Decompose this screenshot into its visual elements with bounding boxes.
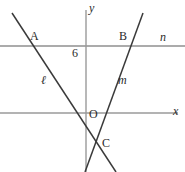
- line-m: [85, 13, 143, 172]
- origin-label: O: [89, 108, 98, 120]
- point-label-b: B: [119, 30, 127, 42]
- y-axis-label: y: [89, 2, 94, 14]
- point-label-a: A: [30, 30, 39, 42]
- geometry-canvas: [0, 0, 185, 172]
- line-label-n: n: [160, 31, 166, 43]
- line-label-l: ℓ: [41, 74, 46, 86]
- x-axis-label: x: [173, 105, 178, 117]
- geometry-figure: A B C O 6 x y n m ℓ: [0, 0, 185, 172]
- y-intercept-tick-label: 6: [72, 47, 78, 59]
- line-l: [12, 13, 116, 172]
- point-label-c: C: [102, 137, 110, 149]
- line-label-m: m: [118, 74, 127, 86]
